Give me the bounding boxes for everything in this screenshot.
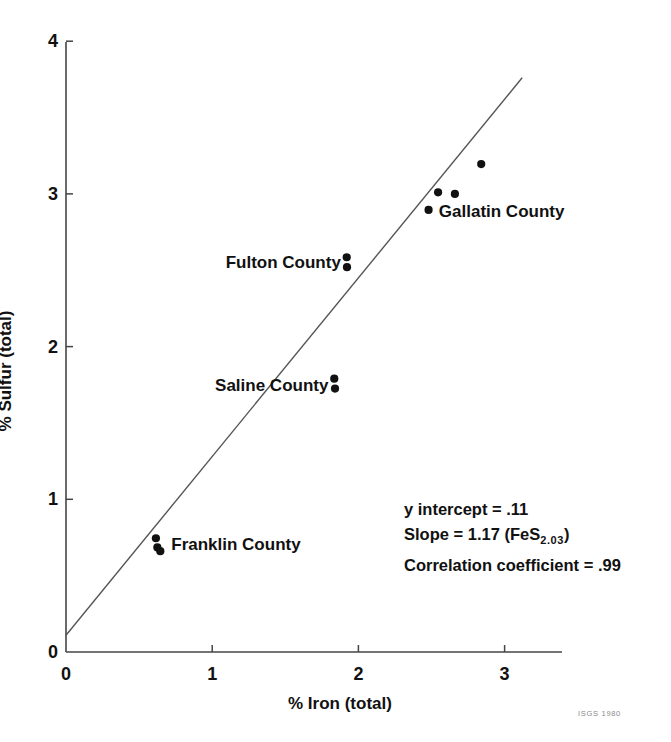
series-label-gallatin-county: Gallatin County [439, 202, 565, 222]
y-tick-label-0: 0 [40, 642, 58, 663]
data-point [451, 190, 459, 198]
data-point [343, 263, 351, 271]
series-label-franklin-county: Franklin County [171, 535, 300, 555]
statistics-annotation: y intercept = .11 Slope = 1.17 (FeS2.03)… [404, 497, 621, 578]
data-point [434, 188, 442, 196]
correlation-annotation: Correlation coefficient = .99 [404, 553, 621, 578]
slope-formula-subscript: 2.03 [540, 534, 564, 546]
y-axis-title: % Sulfur (total) [0, 311, 16, 432]
correlation-label: Correlation coefficient = [404, 556, 598, 574]
data-point [331, 384, 339, 392]
scatter-plot-figure: 012301234 Franklin CountySaline CountyFu… [0, 0, 671, 742]
y-tick-label-1: 1 [40, 489, 58, 510]
x-tick-label-0: 0 [61, 664, 71, 685]
correlation-value: .99 [598, 556, 621, 574]
x-axis-title: % Iron (total) [288, 694, 392, 714]
source-credit: ISGS 1980 [578, 709, 621, 718]
series-label-fulton-county: Fulton County [226, 253, 341, 273]
slope-label: Slope = [404, 525, 468, 543]
slope-value: 1.17 [468, 525, 500, 543]
data-point [156, 547, 164, 555]
series-label-saline-county: Saline County [215, 376, 328, 396]
data-point [330, 375, 338, 383]
x-tick-label-2: 2 [353, 664, 363, 685]
slope-formula-open: (FeS [500, 525, 540, 543]
data-point [477, 160, 485, 168]
x-tick-label-3: 3 [500, 664, 510, 685]
data-point [343, 253, 351, 261]
data-point [152, 534, 160, 542]
data-point [424, 206, 432, 214]
x-tick-label-1: 1 [207, 664, 217, 685]
slope-formula-close: ) [564, 525, 570, 543]
y-tick-label-2: 2 [40, 336, 58, 357]
slope-annotation: Slope = 1.17 (FeS2.03) [404, 522, 621, 553]
y-intercept-label: y intercept = [404, 500, 506, 518]
y-intercept-value: .11 [506, 500, 528, 518]
y-intercept-annotation: y intercept = .11 [404, 497, 621, 522]
plot-canvas [0, 0, 671, 742]
y-tick-label-4: 4 [40, 31, 58, 52]
y-tick-label-3: 3 [40, 183, 58, 204]
